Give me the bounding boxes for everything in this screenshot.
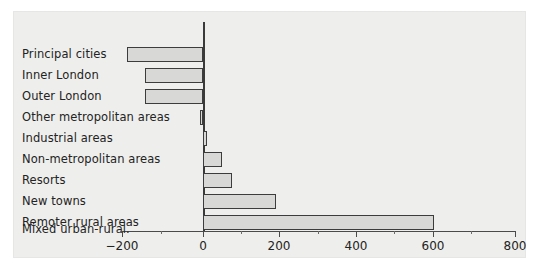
x-tick-major xyxy=(515,231,516,237)
bar[interactable] xyxy=(203,131,207,146)
x-tick-label: 600 xyxy=(422,239,445,253)
category-label: Inner London xyxy=(22,65,99,86)
x-tick-label: 200 xyxy=(268,239,291,253)
category-label: Non-metropolitan areas xyxy=(22,149,160,170)
x-tick-minor xyxy=(241,231,242,234)
value-axis-line xyxy=(122,231,516,232)
category-label: Other metropolitan areas xyxy=(22,107,170,128)
bar[interactable] xyxy=(145,68,203,83)
figure: Principal cities Inner London Outer Lond… xyxy=(0,0,539,269)
category-label: Resorts xyxy=(22,170,66,191)
category-label: Mixed urban-rural. xyxy=(22,219,130,240)
bar[interactable] xyxy=(145,89,203,104)
x-tick-label: 0 xyxy=(199,239,207,253)
chart-panel: Principal cities Inner London Outer Lond… xyxy=(14,12,525,257)
x-tick-minor xyxy=(394,231,395,234)
bar[interactable] xyxy=(203,215,434,230)
x-tick-minor xyxy=(471,231,472,234)
category-label: Outer London xyxy=(22,86,102,107)
bar[interactable] xyxy=(127,47,203,62)
x-tick-label: 800 xyxy=(504,239,527,253)
x-tick-label: 400 xyxy=(345,239,368,253)
x-tick-minor xyxy=(161,231,162,234)
category-label: Industrial areas xyxy=(22,128,113,149)
x-tick-major xyxy=(122,231,123,237)
x-tick-minor xyxy=(318,231,319,234)
x-tick-label: −200 xyxy=(106,239,139,253)
x-tick-major xyxy=(203,231,204,237)
bar[interactable] xyxy=(203,173,232,188)
bar[interactable] xyxy=(203,152,222,167)
category-label: Principal cities xyxy=(22,44,107,65)
category-label: New towns xyxy=(22,191,86,212)
x-tick-major xyxy=(356,231,357,237)
x-tick-major xyxy=(433,231,434,237)
x-tick-major xyxy=(279,231,280,237)
bar[interactable] xyxy=(203,194,276,209)
plot-area: Principal cities Inner London Outer Lond… xyxy=(14,12,525,257)
bar[interactable] xyxy=(200,110,203,125)
